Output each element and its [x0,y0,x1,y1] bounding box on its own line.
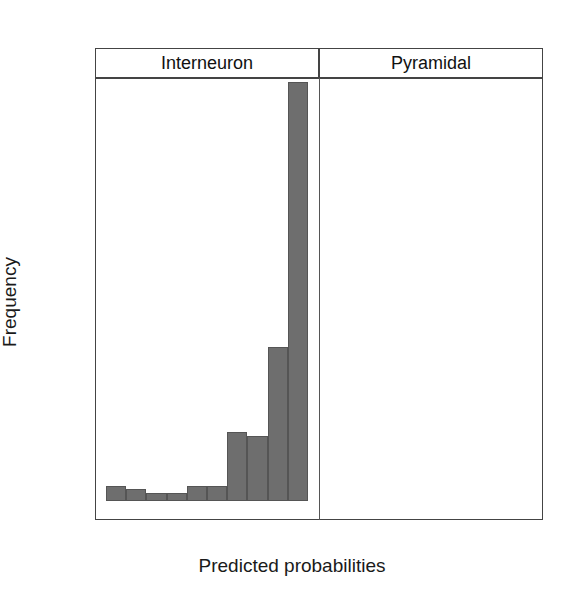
histogram-bar [106,486,126,501]
histogram-bar [227,432,247,501]
x-axis-title: Predicted probabilities [199,555,386,577]
histogram-figure: Frequency Predicted probabilities Intern… [0,0,584,604]
panel-strip-interneuron: Interneuron [95,48,319,78]
histogram-bar [167,493,187,501]
histogram-bar [288,82,308,501]
histogram-bar [187,486,207,501]
histogram-bar [126,489,146,501]
panel-pyramidal [320,79,542,519]
panel-strip-interneuron-label: Interneuron [161,53,253,74]
panel-interneuron [96,79,318,519]
y-axis-title: Frequency [0,257,21,347]
histogram-bar [146,493,166,501]
histogram-bar [247,436,267,501]
histogram-bar [207,486,227,501]
panel-strip-pyramidal-label: Pyramidal [391,53,471,74]
histogram-bar [268,347,288,501]
panel-strip-pyramidal: Pyramidal [319,48,543,78]
